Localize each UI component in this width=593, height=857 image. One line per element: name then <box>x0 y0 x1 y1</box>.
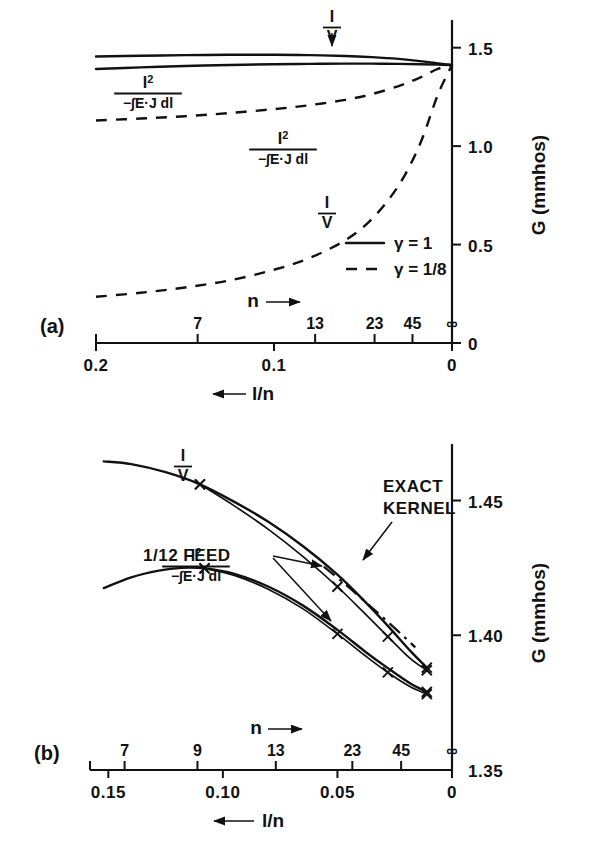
panel-b-ntick-label-2: 13 <box>267 742 285 759</box>
panel-b-frac-i2-denominator: −∫E·J dl <box>171 568 221 585</box>
panel-b-exact-kernel-line2: KERNEL <box>383 499 456 518</box>
panel-a-frac-i2-dashed-denominator: −∫E·J dl <box>258 151 308 168</box>
panel-b-frac-iv: IV <box>174 447 192 484</box>
panel-b-inv-n-label: l/n <box>262 810 284 831</box>
panel-a-ntick-label-3: 45 <box>404 315 422 332</box>
panel-b-ntick-label-0: 7 <box>120 742 129 759</box>
panel-b-ytick-label-1: 1.40 <box>468 627 503 646</box>
panel-b-chart: 0.150.100.05079132345∞1.351.401.45nl/nG … <box>0 418 593 857</box>
panel-a-label: (a) <box>40 315 64 337</box>
panel-b-exact-kernel-leader <box>363 522 392 560</box>
panel-b-xtick-label-3: 0 <box>447 783 457 802</box>
panel-a-frac-i2-solid-numerator: I2 <box>143 73 154 91</box>
panel-a-frac-i2-solid-denominator: −∫E·J dl <box>123 95 173 112</box>
panel-a-label-I-over-V-solid: IV <box>323 8 341 46</box>
panel-b-feed-label: 1/12 FEED <box>143 546 231 565</box>
panel-b-x-axis-title-bottom: l/n <box>214 810 284 831</box>
panel-a-frac-i2-solid: I2−∫E·J dl <box>114 73 182 112</box>
panel-a-ytick-label-1: 0.5 <box>468 237 493 256</box>
panel-a-legend-label-1: γ = 1/8 <box>394 260 446 279</box>
panel-a-frac-iv-dashed-numerator: I <box>325 194 329 211</box>
panel-b-feed-leader-1 <box>273 556 322 566</box>
panel-b-x-axis-title-top: n <box>250 717 302 738</box>
panel-b-label: (b) <box>34 742 60 764</box>
panel-a-ntick-label-4: ∞ <box>446 315 457 332</box>
panel-a-x-axis-title-top: n <box>247 290 300 311</box>
panel-a-frac-iv-dashed-denominator: V <box>322 214 333 231</box>
panel-b-xtick-label-0: 0.15 <box>91 783 126 802</box>
panel-b-ntick-label-5: ∞ <box>446 742 457 759</box>
panel-a-legend-label-0: γ = 1 <box>394 234 432 253</box>
panel-a-y-axis-title: G (mmhos) <box>528 135 549 235</box>
panel-a-ntick-label-0: 7 <box>193 315 202 332</box>
panel-b-annotation-exact-kernel: EXACTKERNEL <box>363 477 456 560</box>
panel-a-chart: 0.20.107132345∞00.51.01.5nl/nG (mmhos)(a… <box>0 0 593 420</box>
panel-b-split-marker-top <box>195 479 205 489</box>
panel-b-ytick-label-2: 1.45 <box>468 493 503 512</box>
panel-a-frac-i2-dashed-numerator: I2 <box>278 129 289 147</box>
panel-b-frac-iv-numerator: I <box>181 447 185 464</box>
figure-root: 0.20.107132345∞00.51.01.5nl/nG (mmhos)(a… <box>0 0 593 857</box>
panel-b-exact-kernel-line1: EXACT <box>383 477 443 496</box>
panel-a-curve-1 <box>96 64 452 69</box>
panel-b-curve-3 <box>104 568 427 692</box>
panel-a-ytick-label-3: 1.5 <box>468 40 493 59</box>
panel-a-x-axis-title-bottom: l/n <box>213 383 274 404</box>
panel-b-curve-1-marker-2 <box>383 632 393 642</box>
panel-a-xtick-label-2: 0 <box>447 356 457 375</box>
panel-b-frac-iv-denominator: V <box>178 467 189 484</box>
panel-a-frac-iv-dashed: IV <box>318 194 336 231</box>
panel-a-ytick-label-2: 1.0 <box>468 138 493 157</box>
panel-a-ntick-label-1: 13 <box>306 315 324 332</box>
panel-b-ntick-label-1: 9 <box>193 742 202 759</box>
panel-b-ytick-label-0: 1.35 <box>468 762 503 781</box>
panel-b-xtick-label-1: 0.10 <box>205 783 240 802</box>
panel-a-xtick-label-1: 0.1 <box>261 356 286 375</box>
panel-a-xtick-label-0: 0.2 <box>83 356 108 375</box>
panel-a-frac-iv-solid-numerator: I <box>330 8 334 25</box>
panel-a-inv-n-label: l/n <box>252 383 274 404</box>
panel-b-y-axis-title: G (mmhos) <box>528 563 549 663</box>
panel-b-curve-1-marker-1 <box>332 582 342 592</box>
panel-a-legend: γ = 1γ = 1/8 <box>346 234 446 279</box>
panel-b-ntick-label-3: 23 <box>343 742 361 759</box>
panel-b-curve-4-marker-3 <box>422 689 432 699</box>
panel-b-xtick-label-2: 0.05 <box>320 783 355 802</box>
panel-a-frac-i2-dashed: I2−∫E·J dl <box>249 129 317 168</box>
panel-b-ntick-label-4: 45 <box>392 742 410 759</box>
panel-a-n-label: n <box>247 290 259 311</box>
panel-b-n-label: n <box>250 717 262 738</box>
panel-a-ntick-label-2: 23 <box>366 315 384 332</box>
panel-a-ytick-label-0: 0 <box>468 335 478 354</box>
panel-b-feed-leader-2 <box>273 558 331 621</box>
